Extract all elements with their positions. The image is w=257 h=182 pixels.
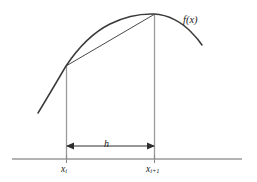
function-curve xyxy=(38,14,202,113)
axis-label-xi-subscript: i xyxy=(65,167,67,174)
figure-container: f(x) h xi xi+1 xyxy=(0,0,257,182)
axis-label-xip1: xi+1 xyxy=(146,165,160,175)
secant-chord-line xyxy=(66,15,154,67)
interval-label-h: h xyxy=(104,139,109,149)
axis-label-xip1-subscript: i+1 xyxy=(150,167,159,174)
axis-label-xi: xi xyxy=(61,165,67,175)
curve-label-fx: f(x) xyxy=(183,15,198,26)
h-arrow-head-right xyxy=(147,143,155,150)
h-arrow-head-left xyxy=(66,143,74,150)
trapezoidal-rule-figure xyxy=(0,0,257,182)
